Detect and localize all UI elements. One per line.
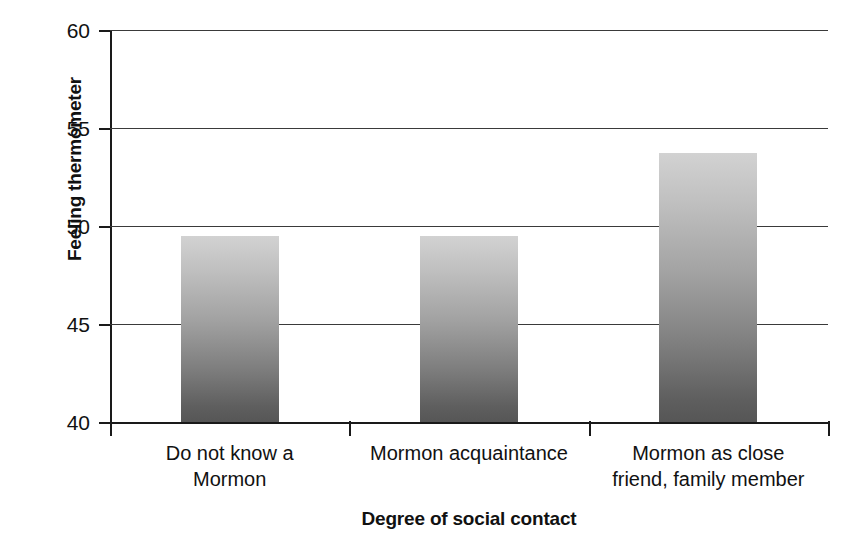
bar-1 bbox=[181, 236, 279, 422]
bar-3 bbox=[659, 153, 757, 422]
x-category-label-line: Do not know a bbox=[110, 440, 349, 466]
y-tick-label-40: 40 bbox=[67, 411, 90, 435]
y-axis-title: Feeling thermometer bbox=[64, 34, 86, 304]
y-tick-label-45: 45 bbox=[67, 313, 90, 337]
bar-2 bbox=[420, 236, 518, 422]
x-tick-3 bbox=[828, 421, 830, 436]
x-tick-2 bbox=[589, 421, 591, 436]
x-category-label-3: Mormon as closefriend, family member bbox=[589, 440, 828, 492]
y-tick-45: 45 bbox=[99, 324, 110, 326]
y-tick-label-60: 60 bbox=[67, 19, 90, 43]
x-category-label-2: Mormon acquaintance bbox=[349, 440, 588, 466]
y-tick-50: 50 bbox=[99, 226, 110, 228]
bar-chart: Feeling thermometer 4045505560 Do not kn… bbox=[0, 0, 867, 550]
x-category-label-line: friend, family member bbox=[589, 466, 828, 492]
x-category-labels: Do not know aMormonMormon acquaintanceMo… bbox=[110, 440, 828, 498]
x-category-label-line: Mormon acquaintance bbox=[349, 440, 588, 466]
gridline-60 bbox=[110, 30, 828, 31]
x-category-label-line: Mormon as close bbox=[589, 440, 828, 466]
x-category-label-1: Do not know aMormon bbox=[110, 440, 349, 492]
y-tick-label-55: 55 bbox=[67, 117, 90, 141]
y-tick-55: 55 bbox=[99, 128, 110, 130]
x-category-label-line: Mormon bbox=[110, 466, 349, 492]
y-tick-40: 40 bbox=[99, 422, 110, 424]
y-tick-label-50: 50 bbox=[67, 215, 90, 239]
x-tick-0 bbox=[110, 421, 112, 436]
gridline-55 bbox=[110, 128, 828, 129]
plot-area: 4045505560 bbox=[110, 30, 828, 422]
x-axis-title: Degree of social contact bbox=[110, 508, 828, 530]
x-tick-group bbox=[110, 421, 828, 437]
x-tick-1 bbox=[349, 421, 351, 436]
y-tick-60: 60 bbox=[99, 30, 110, 32]
